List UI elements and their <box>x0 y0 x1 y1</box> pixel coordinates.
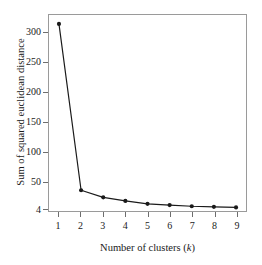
x-tick-mark <box>170 212 171 217</box>
data-point <box>57 22 61 26</box>
data-point <box>168 203 172 207</box>
x-tick-label: 5 <box>140 220 156 231</box>
x-tick-mark <box>148 212 149 217</box>
x-tick-mark <box>80 212 81 217</box>
plot-series-area <box>49 15 246 211</box>
x-tick-mark <box>237 212 238 217</box>
y-tick-mark <box>43 209 48 210</box>
x-axis-title: Number of clusters (k) <box>45 241 250 254</box>
y-tick-label: 50 <box>1 177 41 187</box>
x-tick-label: 6 <box>162 220 178 231</box>
data-point <box>79 188 83 192</box>
y-tick-label: 150 <box>1 117 41 127</box>
x-axis-title-tail: ) <box>191 242 195 253</box>
plot-frame <box>48 14 247 212</box>
x-tick-mark <box>192 212 193 217</box>
x-tick-label: 1 <box>50 220 66 231</box>
series-line <box>59 24 236 208</box>
x-tick-label: 2 <box>72 220 88 231</box>
y-tick-label: 300 <box>1 27 41 37</box>
y-tick-mark <box>43 122 48 123</box>
data-point <box>234 205 238 209</box>
x-tick-mark <box>215 212 216 217</box>
x-tick-label: 4 <box>117 220 133 231</box>
y-tick-mark <box>43 32 48 33</box>
x-tick-label: 3 <box>95 220 111 231</box>
y-tick-mark <box>43 62 48 63</box>
y-tick-mark <box>43 152 48 153</box>
y-tick-mark <box>43 182 48 183</box>
x-tick-label: 7 <box>184 220 200 231</box>
data-point <box>212 205 216 209</box>
data-point <box>190 204 194 208</box>
x-tick-mark <box>125 212 126 217</box>
series-markers <box>57 22 238 210</box>
data-point <box>101 195 105 199</box>
x-tick-label: 9 <box>229 220 245 231</box>
x-tick-mark <box>103 212 104 217</box>
y-tick-label: 250 <box>1 57 41 67</box>
x-tick-mark <box>58 212 59 217</box>
data-point <box>145 202 149 206</box>
x-axis-title-text: Number of clusters ( <box>100 242 187 253</box>
y-tick-label: 4 <box>1 205 41 215</box>
elbow-plot-figure: Sum of squared euclidean distance Number… <box>0 0 262 265</box>
y-tick-label: 100 <box>1 147 41 157</box>
data-point <box>123 199 127 203</box>
y-tick-label: 200 <box>1 87 41 97</box>
y-tick-mark <box>43 92 48 93</box>
x-tick-label: 8 <box>207 220 223 231</box>
